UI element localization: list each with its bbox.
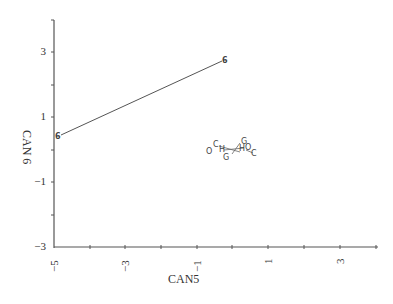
y-tick-label-1: 1 bbox=[26, 110, 46, 122]
connector-line bbox=[61, 61, 222, 135]
point-6-b: 6 bbox=[222, 57, 228, 65]
y-axis-title: CAN 6 bbox=[19, 130, 34, 164]
x-tick-label-neg1: −1 bbox=[191, 260, 203, 272]
y-tick-label-neg1: −1 bbox=[26, 175, 46, 187]
point-6-a: 6 bbox=[55, 133, 61, 141]
y-tick-label-neg3: −3 bbox=[26, 240, 46, 252]
x-axis-title: CAN5 bbox=[168, 272, 199, 287]
x-tick-label-neg5: −5 bbox=[48, 260, 60, 272]
x-tick-label-3: 3 bbox=[334, 259, 346, 265]
x-tick-label-neg3: −3 bbox=[119, 260, 131, 272]
x-tick-label-1: 1 bbox=[262, 259, 274, 265]
point-g-1: G bbox=[223, 154, 229, 162]
point-o-1: O bbox=[206, 148, 212, 156]
point-c-1: C bbox=[213, 141, 219, 149]
point-c-2: C bbox=[251, 150, 257, 158]
y-tick-label-3: 3 bbox=[26, 45, 46, 57]
